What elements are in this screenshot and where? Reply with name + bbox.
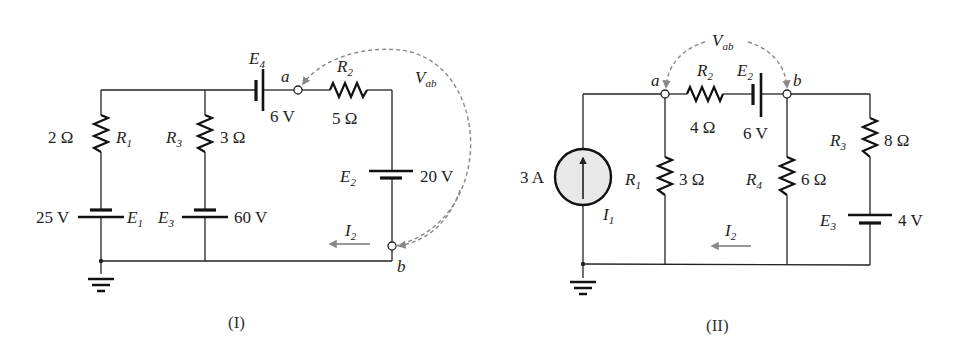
r2-label: R2 (336, 57, 353, 78)
r2-label: R2 (696, 61, 713, 82)
i2-label: I2 (344, 221, 357, 242)
battery-e2: E2 6 V (736, 61, 768, 143)
r1-value: 2 Ω (48, 128, 73, 147)
e2-value: 20 V (420, 167, 454, 186)
r4-label: R4 (745, 170, 762, 191)
r3-value: 8 Ω (884, 131, 909, 150)
vab-arrow-b (748, 42, 787, 87)
r3-label: R3 (165, 128, 182, 149)
e4-label: E4 (248, 49, 265, 70)
vab-arrow-b (399, 190, 460, 246)
ground-icon (570, 282, 596, 294)
circuit-diagrams: 2 Ω R1 R3 3 Ω 25 V E1 E3 60 V E4 (0, 0, 960, 351)
battery-e3: E3 60 V (157, 208, 268, 229)
node-b-label: b (793, 71, 802, 90)
battery-e1: 25 V E1 (36, 208, 143, 229)
ground-icon (88, 279, 114, 291)
r3-value: 3 Ω (220, 128, 245, 147)
battery-e3: E3 4 V (819, 211, 923, 232)
e3-value: 60 V (234, 208, 268, 227)
caption-2: (II) (706, 316, 729, 335)
current-source-i1: 3 A I1 (520, 149, 614, 226)
node-a (661, 90, 669, 98)
r1-label: R1 (115, 128, 132, 149)
resistor-r2: R2 4 Ω (687, 61, 723, 137)
battery-e2: E2 20 V (339, 167, 454, 188)
battery-e4: E4 6 V (248, 49, 295, 126)
e4-value: 6 V (270, 107, 295, 126)
r2-value: 4 Ω (690, 118, 715, 137)
r1-label: R1 (624, 170, 641, 191)
r1-value: 3 Ω (679, 170, 704, 189)
caption-1: (I) (228, 313, 245, 332)
e3-label: E3 (819, 211, 836, 232)
r2-value: 5 Ω (332, 109, 357, 128)
node-b (783, 90, 791, 98)
resistor-r1: R1 3 Ω (624, 157, 704, 195)
circuit-1: 2 Ω R1 R3 3 Ω 25 V E1 E3 60 V E4 (36, 49, 471, 332)
resistor-r1: 2 Ω R1 (48, 115, 132, 152)
resistor-r2: R2 5 Ω (330, 57, 367, 128)
node-a-label: a (281, 67, 290, 86)
e2-value: 6 V (743, 124, 768, 143)
resistor-r4: R4 6 Ω (745, 157, 826, 195)
e2-label: E2 (736, 61, 753, 82)
vab-label: Vab (712, 31, 734, 52)
r3-label: R3 (829, 131, 846, 152)
e3-value: 4 V (898, 211, 923, 230)
node-a (294, 86, 302, 94)
circuit-2: 3 A I1 R1 3 Ω R4 6 Ω R3 8 Ω E3 4 V (520, 31, 923, 335)
node-b (388, 242, 396, 250)
e1-label: E1 (126, 208, 143, 229)
e1-value: 25 V (36, 208, 70, 227)
vab-label: Vab (415, 68, 437, 89)
vab-arrow (303, 49, 471, 246)
r4-value: 6 Ω (801, 170, 826, 189)
node-a-label: a (651, 71, 660, 90)
e3-label: E3 (157, 208, 174, 229)
i2-label: I2 (724, 221, 737, 242)
e2-label: E2 (339, 167, 356, 188)
node-b-label: b (397, 257, 406, 276)
i1-label: I1 (602, 205, 614, 226)
resistor-r3: R3 3 Ω (165, 115, 245, 152)
i1-value: 3 A (520, 168, 545, 187)
resistor-r3: R3 8 Ω (829, 118, 909, 157)
